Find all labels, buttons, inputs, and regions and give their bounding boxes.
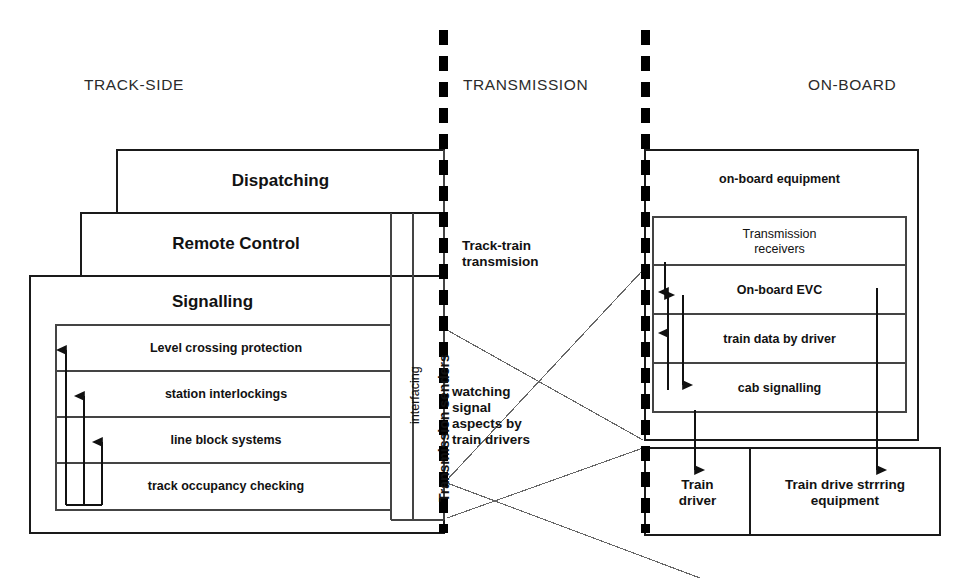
line-receivers-to-senders bbox=[447, 270, 643, 480]
label-station-interlockings: station interlockings bbox=[66, 387, 386, 402]
label-track-occupancy-checking: track occupancy checking bbox=[66, 479, 386, 494]
line-senders-to-train-driver bbox=[447, 448, 643, 518]
label-level-crossing-protection: Level crossing protection bbox=[66, 341, 386, 356]
label-interfacing: interfacing bbox=[408, 366, 422, 424]
box-signalling bbox=[30, 276, 444, 533]
label-transmission-senders: Transmission senders bbox=[436, 354, 452, 502]
label-on-board-equipment: on-board equipment bbox=[653, 172, 906, 187]
label-watching-signal-aspects: watching signal aspects by train drivers bbox=[452, 384, 622, 448]
label-signalling: Signalling bbox=[40, 292, 385, 312]
label-track-train-transmission: Track-train transmision bbox=[462, 238, 612, 270]
label-line-block-systems: line block systems bbox=[66, 433, 386, 448]
label-dispatching: Dispatching bbox=[117, 171, 444, 191]
label-on-board-evc: On-board EVC bbox=[653, 283, 906, 298]
label-transmission-receivers: Transmission receivers bbox=[653, 227, 906, 257]
label-cab-signalling: cab signalling bbox=[653, 381, 906, 396]
label-steering-equipment: Train drive strrring equipment bbox=[750, 477, 940, 509]
label-train-driver: Train driver bbox=[645, 477, 750, 509]
label-train-data-by-driver: train data by driver bbox=[653, 332, 906, 347]
diagram-canvas: TRACK-SIDE TRANSMISSION ON-BOARD bbox=[0, 0, 975, 581]
label-remote-control: Remote Control bbox=[81, 234, 391, 254]
